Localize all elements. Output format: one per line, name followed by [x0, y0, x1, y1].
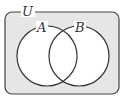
venn-diagram: U A B [0, 0, 124, 98]
set-a-label: A [36, 20, 46, 35]
circle-b [49, 26, 109, 86]
universe-label: U [22, 4, 34, 19]
set-b-label: B [74, 20, 85, 35]
